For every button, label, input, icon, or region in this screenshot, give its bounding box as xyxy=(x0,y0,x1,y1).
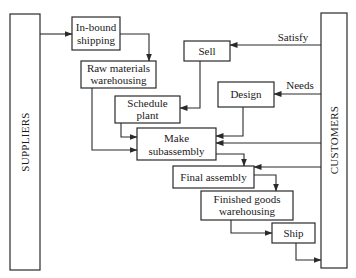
schedule-plant-label-2: plant xyxy=(137,109,159,121)
sell-label: Sell xyxy=(198,45,215,57)
final-assembly-label: Final assembly xyxy=(180,171,247,183)
inbound-shipping-label-2: shipping xyxy=(77,34,115,46)
arrow-ship-to-customers xyxy=(296,243,321,260)
suppliers-box: SUPPLIERS xyxy=(10,14,40,270)
raw-materials-box: Raw materials warehousing xyxy=(81,61,156,88)
finished-goods-box: Finished goods warehousing xyxy=(201,191,293,220)
design-label: Design xyxy=(230,88,262,100)
needs-flow-label: Needs xyxy=(286,79,314,91)
arrow-finished-to-ship xyxy=(231,220,272,233)
schedule-plant-box: Schedule plant xyxy=(115,96,180,123)
make-subassembly-box: Make subassembly xyxy=(137,128,216,160)
ship-label: Ship xyxy=(283,227,304,239)
sell-box: Sell xyxy=(184,41,230,61)
supply-chain-diagram: SUPPLIERS CUSTOMERS In-bound shipping Ra… xyxy=(0,0,356,278)
arrow-schedule-to-make xyxy=(121,123,137,137)
raw-materials-label-2: warehousing xyxy=(90,74,147,86)
raw-materials-label-1: Raw materials xyxy=(87,62,150,74)
final-assembly-box: Final assembly xyxy=(173,166,254,188)
arrow-final-to-finished xyxy=(254,175,276,191)
customers-box: CUSTOMERS xyxy=(321,13,347,268)
arrow-sell-to-schedule xyxy=(180,61,200,108)
make-subassembly-label-1: Make xyxy=(164,132,189,144)
make-subassembly-label-2: subassembly xyxy=(148,145,205,157)
ship-box: Ship xyxy=(272,223,315,243)
suppliers-label: SUPPLIERS xyxy=(19,112,31,172)
arrow-design-to-make xyxy=(216,107,243,136)
arrow-make-to-final xyxy=(216,154,244,166)
finished-goods-label-2: warehousing xyxy=(219,205,276,217)
customers-label: CUSTOMERS xyxy=(328,106,340,175)
design-box: Design xyxy=(218,82,274,107)
arrow-inbound-to-raw xyxy=(120,34,149,61)
finished-goods-label-1: Finished goods xyxy=(214,193,281,205)
satisfy-flow-label: Satisfy xyxy=(278,31,309,43)
inbound-shipping-box: In-bound shipping xyxy=(72,17,120,50)
schedule-plant-label-1: Schedule xyxy=(127,97,167,109)
inbound-shipping-label-1: In-bound xyxy=(76,21,117,33)
